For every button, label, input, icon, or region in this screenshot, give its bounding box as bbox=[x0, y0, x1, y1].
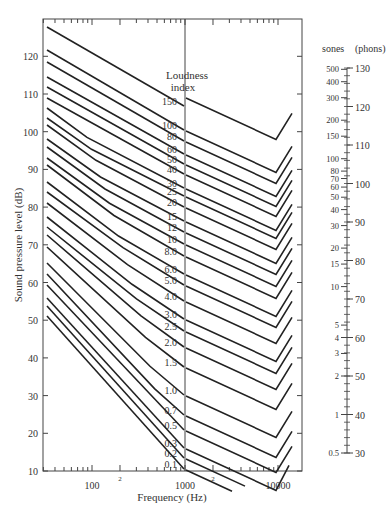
y-tick-label: 40 bbox=[28, 353, 38, 364]
curve-label: 150 bbox=[162, 96, 177, 107]
phon-label: 30 bbox=[355, 448, 365, 459]
phon-label: 60 bbox=[355, 333, 365, 344]
loudness-curve-left bbox=[47, 27, 184, 106]
phon-label: 40 bbox=[355, 410, 365, 421]
y-tick-label: 100 bbox=[23, 127, 38, 138]
phon-label: 110 bbox=[355, 140, 370, 151]
phon-label: 70 bbox=[355, 294, 365, 305]
x-tick-label: 1000 bbox=[175, 480, 195, 491]
loudness-curve-left bbox=[47, 235, 184, 347]
y-tick-label: 110 bbox=[23, 89, 38, 100]
loudness-curve-right bbox=[186, 302, 292, 343]
loudness-curve-left bbox=[47, 306, 184, 458]
curve-label: 4.0 bbox=[165, 291, 178, 302]
sone-label: 1 bbox=[335, 410, 339, 420]
x-axis-label: Frequency (Hz) bbox=[137, 491, 207, 504]
sone-label: 10 bbox=[331, 282, 340, 292]
phon-label: 130 bbox=[355, 63, 370, 74]
curve-label: 40 bbox=[167, 164, 177, 175]
curve-label: 5.0 bbox=[165, 275, 178, 286]
curve-label: 8.0 bbox=[165, 246, 178, 257]
sone-label: 100 bbox=[326, 154, 339, 164]
sone-label: 3 bbox=[335, 348, 339, 358]
phon-label: 80 bbox=[355, 256, 365, 267]
sone-label: 200 bbox=[326, 115, 339, 125]
sone-label: 5 bbox=[335, 320, 339, 330]
sone-label: 500 bbox=[326, 64, 339, 74]
curve-label: 80 bbox=[167, 131, 177, 142]
curve-label: 20 bbox=[167, 197, 177, 208]
y-tick-label: 10 bbox=[28, 466, 38, 477]
sone-label: 15 bbox=[331, 259, 340, 269]
loudness-curve-left bbox=[47, 77, 184, 154]
y-tick-label: 50 bbox=[28, 315, 38, 326]
sone-label: 20 bbox=[331, 243, 340, 253]
curve-label: 10 bbox=[167, 234, 177, 245]
y-tick-label: 80 bbox=[28, 202, 38, 213]
x-minor-label: 2 bbox=[118, 475, 122, 483]
y-tick-label: 20 bbox=[28, 428, 38, 439]
loudness-chart: 1020304050607080901001101201001000100002… bbox=[0, 0, 391, 512]
y-tick-label: 120 bbox=[23, 51, 38, 62]
sones-title: sones bbox=[322, 43, 344, 54]
phon-label: 90 bbox=[355, 217, 365, 228]
loudness-curve-left bbox=[47, 285, 184, 430]
sone-label: 30 bbox=[331, 221, 340, 231]
sone-label: 400 bbox=[326, 77, 339, 87]
loudness-curve-right bbox=[186, 348, 292, 389]
phons-title: (phons) bbox=[355, 43, 386, 55]
curve-label: 2.0 bbox=[165, 337, 178, 348]
curve-label: 12 bbox=[167, 222, 177, 233]
loudness-curve-right bbox=[186, 245, 292, 286]
curve-label: 1.5 bbox=[165, 357, 178, 368]
phon-label: 120 bbox=[355, 102, 370, 113]
loudness-curve-left bbox=[47, 274, 184, 415]
loudness-curve-right bbox=[186, 332, 292, 373]
sone-label: 40 bbox=[331, 205, 340, 215]
sone-label: 300 bbox=[326, 93, 339, 103]
phon-label: 50 bbox=[355, 371, 365, 382]
loudness-curve-right bbox=[186, 396, 292, 437]
sone-label: 150 bbox=[326, 131, 339, 141]
sone-label: 4 bbox=[335, 333, 340, 343]
y-tick-label: 70 bbox=[28, 240, 38, 251]
phon-label: 100 bbox=[355, 179, 370, 190]
sone-label: 2 bbox=[335, 371, 339, 381]
curve-label: 25 bbox=[167, 186, 177, 197]
y-axis-label: Sound pressure level (dB) bbox=[12, 187, 25, 302]
x-tick-label: 100 bbox=[85, 480, 100, 491]
loudness-curve-left bbox=[47, 316, 184, 469]
y-tick-label: 30 bbox=[28, 391, 38, 402]
curve-label: 1.0 bbox=[165, 385, 178, 396]
sone-label: 60 bbox=[331, 182, 340, 192]
sone-label: 50 bbox=[331, 192, 340, 202]
curve-label: 2.5 bbox=[165, 321, 178, 332]
curve-label: 0.1 bbox=[165, 459, 178, 470]
loudness-curve-left bbox=[47, 50, 184, 130]
legend-subtitle: index bbox=[171, 81, 196, 93]
sone-label: 0.5 bbox=[328, 448, 339, 458]
curve-label: 15 bbox=[167, 211, 177, 222]
legend-title: Loudness bbox=[166, 69, 208, 81]
loudness-curve-right bbox=[186, 286, 292, 327]
loudness-curve-right bbox=[186, 98, 292, 139]
loudness-curve-left bbox=[47, 298, 184, 448]
y-tick-label: 60 bbox=[28, 278, 38, 289]
y-tick-label: 90 bbox=[28, 164, 38, 175]
